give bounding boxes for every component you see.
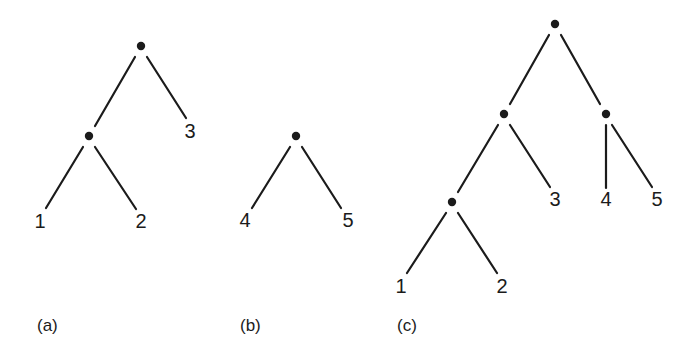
panel-c-node-internal-right bbox=[602, 110, 610, 118]
panel-c-leaf-1-label: 1 bbox=[395, 275, 406, 297]
panel-b-leaf-5-label: 5 bbox=[342, 209, 353, 231]
panel-a-leaf-1-label: 1 bbox=[34, 210, 45, 232]
panel-a-node-root bbox=[137, 42, 145, 50]
panel-c-node-root bbox=[551, 20, 559, 28]
panel-c-leaf-4-label: 4 bbox=[600, 188, 611, 210]
panel-b-caption: (b) bbox=[240, 316, 261, 335]
panel-b-node-root bbox=[292, 132, 300, 140]
panel-c-caption: (c) bbox=[397, 316, 417, 335]
panel-b-leaf-4-label: 4 bbox=[239, 209, 250, 231]
panel-a-leaf-3-label: 3 bbox=[184, 120, 195, 142]
panel-a-caption: (a) bbox=[37, 316, 58, 335]
panel-c-leaf-3-label: 3 bbox=[549, 188, 560, 210]
panel-a-node-internal-1 bbox=[85, 132, 93, 140]
panel-a-leaf-2-label: 2 bbox=[135, 210, 146, 232]
panel-c-node-internal-lower-left bbox=[448, 198, 456, 206]
figure-container: 123(a)45(b)12345(c) bbox=[0, 0, 698, 355]
figure-background bbox=[0, 0, 698, 355]
panel-c-node-internal-left bbox=[500, 110, 508, 118]
panel-c-leaf-2-label: 2 bbox=[496, 275, 507, 297]
panel-c-leaf-5-label: 5 bbox=[651, 188, 662, 210]
tree-figure-svg: 123(a)45(b)12345(c) bbox=[0, 0, 698, 355]
